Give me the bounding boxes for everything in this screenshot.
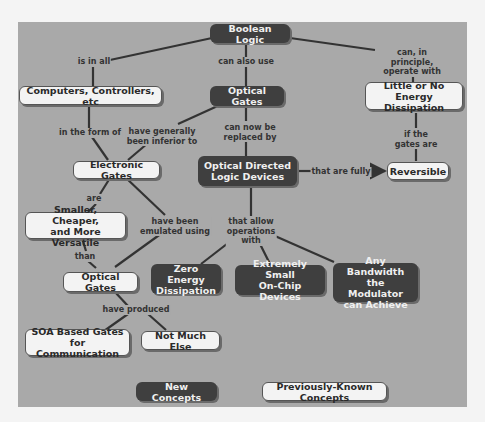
node-smaller-cheaper[interactable]: Smaller, Cheaper, and More Versatile [25, 212, 126, 239]
link-label-can-in-principle: can, in principle, operate with [376, 48, 449, 77]
node-soa-based-gates[interactable]: SOA Based Gates for Communication [25, 329, 130, 356]
node-extremely-small[interactable]: Extremely Small On-Chip Devices [235, 265, 325, 295]
link-label-can-now-be: can now be replaced by [223, 123, 278, 142]
link-label-have-been-emulated: have been emulated using [139, 217, 211, 236]
legend-new-concepts: New Concepts [136, 382, 217, 401]
node-electronic-gates[interactable]: Electronic Gates [73, 161, 160, 179]
node-not-much-else[interactable]: Not Much Else [141, 331, 220, 350]
node-zero-energy-dissipation[interactable]: Zero Energy Dissipation [151, 264, 221, 294]
link-label-have-produced: have produced [101, 305, 170, 315]
node-any-bandwidth[interactable]: Any Bandwidth the Modulator can Achieve [333, 263, 418, 302]
link-label-in-the-form-of: in the form of [58, 128, 122, 138]
link-label-that-are-fully: that are fully [311, 167, 372, 177]
node-little-energy-dissipation[interactable]: Little or No Energy Dissipation [365, 82, 463, 110]
link-label-can-also-use: can also use [217, 57, 275, 67]
node-reversible[interactable]: Reversible [387, 162, 449, 180]
link-label-if-the-gates: if the gates are [394, 130, 439, 149]
link-label-is-in-all: is in all [77, 57, 111, 67]
node-optical-gates-top[interactable]: Optical Gates [210, 86, 284, 106]
node-optical-gates-bottom[interactable]: Optical Gates [63, 272, 138, 292]
link-label-have-generally: have generally been inferior to [126, 127, 199, 146]
link-label-are: are [86, 194, 103, 204]
node-optical-directed-logic[interactable]: Optical Directed Logic Devices [198, 156, 297, 186]
node-computers-controllers[interactable]: Computers, Controllers, etc [19, 86, 162, 105]
link-label-that-allow: that allow operations with [226, 217, 277, 246]
node-boolean-logic[interactable]: Boolean Logic [210, 24, 290, 43]
legend-previously-known-concepts: Previously-Known Concepts [262, 382, 387, 401]
link-label-than: than [74, 252, 97, 262]
